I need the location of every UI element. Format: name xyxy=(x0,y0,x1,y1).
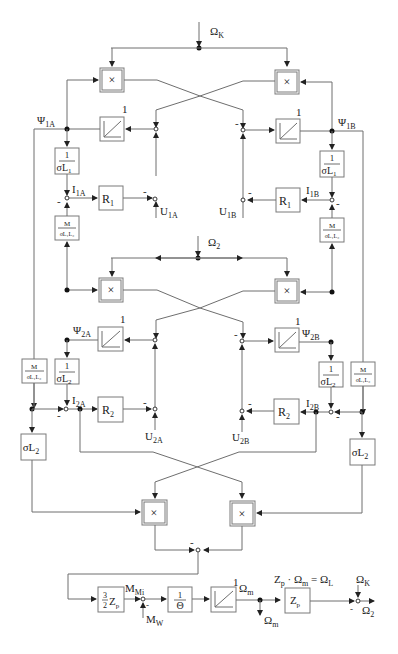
svg-text:3: 3 xyxy=(103,591,107,600)
r2-a-block: R2 xyxy=(98,397,123,422)
svg-text:-: - xyxy=(146,600,149,610)
integrator-1b: 1 xyxy=(276,106,302,143)
svg-text:1: 1 xyxy=(122,103,128,115)
m-ratio-2a: M σL₁L₂ xyxy=(22,359,47,383)
i-2a-label: I2A xyxy=(72,394,86,409)
i-1b-label: I1B xyxy=(306,184,319,199)
svg-text:1: 1 xyxy=(120,313,126,325)
psi1a-to-multiplier xyxy=(67,80,98,129)
node-1b-low xyxy=(330,290,335,295)
multiplier-torque-b: × xyxy=(230,501,255,526)
m-ratio-2b: M σL₁L₂ xyxy=(351,362,375,386)
sum-junction-1a-int xyxy=(126,124,158,176)
svg-text:1: 1 xyxy=(65,150,70,160)
sum-u2a xyxy=(153,407,157,411)
r1-b-block: R1 xyxy=(276,188,300,212)
sum-junction-1b-int: - xyxy=(235,117,274,218)
svg-text:Θ: Θ xyxy=(176,600,183,611)
svg-text:-: - xyxy=(336,410,340,422)
psi1b-to-multiplier xyxy=(301,82,332,131)
block-diagram: ΩK × × 1 1 xyxy=(0,0,398,654)
svg-text:2: 2 xyxy=(103,601,107,610)
sum-i2b xyxy=(329,410,333,414)
r1-a-block: R1 xyxy=(99,186,123,210)
multiplier-torque-a: × xyxy=(142,500,167,525)
u-2a-label: U2A xyxy=(145,430,163,445)
svg-text:-: - xyxy=(234,328,238,340)
u-1b-label: U1B xyxy=(219,205,236,220)
sum-2a-int xyxy=(153,338,157,342)
sum-torque xyxy=(196,548,200,552)
inertia-block: 1 Θ xyxy=(168,587,192,612)
svg-text:-: - xyxy=(248,397,252,409)
multiply-icon: × xyxy=(109,73,116,87)
sigma-l2-b: σL2 xyxy=(350,439,375,465)
svg-text:1: 1 xyxy=(330,153,335,163)
svg-text:σL₁L₂: σL₁L₂ xyxy=(60,231,75,237)
integrator-2b: 1 xyxy=(275,315,301,352)
integrator-1a: 1 xyxy=(100,103,128,141)
svg-text:-: - xyxy=(143,185,147,197)
omega-2-output-label: Ω2 xyxy=(362,604,374,619)
svg-text:σL₁L₂: σL₁L₂ xyxy=(325,233,340,239)
multiply-icon: × xyxy=(284,284,291,298)
multiplier-2a: × xyxy=(99,278,123,302)
svg-text:1: 1 xyxy=(329,364,334,374)
multiply-icon: × xyxy=(284,75,291,89)
omega-m-label: Ωm xyxy=(239,582,254,597)
inv-sigma-l1-b: 1 σL1 xyxy=(320,151,344,178)
u-2b-label: U2B xyxy=(232,431,249,446)
psi-2b-label: Ψ2B xyxy=(302,327,319,342)
sum-u1a xyxy=(153,197,157,201)
psi-2a-label: Ψ2A xyxy=(73,324,91,339)
svg-text:M: M xyxy=(31,363,38,371)
svg-text:-: - xyxy=(143,396,147,408)
svg-text:-: - xyxy=(248,186,252,198)
integrator-speed: 1 xyxy=(211,576,239,612)
omega-2-input: Ω2 xyxy=(111,236,287,276)
sum-i1a xyxy=(65,196,69,200)
multiply-icon: × xyxy=(108,283,115,297)
svg-text:M: M xyxy=(329,222,336,230)
psi-1a-label: Ψ1A xyxy=(37,114,55,129)
multiplier-2b: × xyxy=(275,279,299,303)
multiplier-1a: × xyxy=(100,68,124,92)
svg-text:M: M xyxy=(64,220,71,228)
i-1a-label: I1A xyxy=(72,183,86,198)
cross-coupling-mid xyxy=(123,290,275,336)
svg-text:-: - xyxy=(57,195,61,207)
svg-text:1: 1 xyxy=(65,361,70,371)
psi-1b-label: Ψ1B xyxy=(338,116,355,131)
inv-sigma-l1-a: 1 σL1 xyxy=(55,148,79,175)
u-1a-label: U1A xyxy=(160,205,178,220)
svg-text:1: 1 xyxy=(233,576,239,588)
svg-text:-: - xyxy=(190,536,194,548)
svg-text:Ω2: Ω2 xyxy=(208,236,220,251)
svg-text:σL₁L₂: σL₁L₂ xyxy=(27,374,42,380)
m-mi-label: MMi xyxy=(125,582,145,597)
svg-text:-: - xyxy=(57,409,61,421)
svg-text:1: 1 xyxy=(296,106,302,118)
m-w-label: MW xyxy=(146,613,164,628)
m-ratio-1a: M σL₁L₂ xyxy=(55,216,79,240)
torque-gain-block: 3 2 Zp xyxy=(98,587,124,612)
svg-text:-: - xyxy=(235,117,239,129)
omega-k-input: ΩK xyxy=(111,22,287,66)
r2-b-block: R2 xyxy=(274,399,299,424)
omega-m-output-label: Ωm xyxy=(264,614,279,629)
svg-text:M: M xyxy=(360,366,367,374)
ratio-equation: Zp · Ωm = ΩL xyxy=(274,573,333,588)
integrator-2a: 1 xyxy=(98,313,126,351)
sum-u2b xyxy=(240,409,244,413)
svg-text:1: 1 xyxy=(178,590,183,600)
m-ratio-1b: M σL₁L₂ xyxy=(320,218,344,242)
cross-coupling-top xyxy=(124,80,275,124)
svg-text:-: - xyxy=(336,197,340,209)
sum-i2a xyxy=(64,407,68,411)
node-1a-low xyxy=(65,288,70,293)
multiply-icon: × xyxy=(151,506,158,520)
omega-k-label: ΩK xyxy=(210,25,224,40)
sum-i1b xyxy=(330,198,334,202)
sum-torque-load xyxy=(141,597,145,601)
sum-2b-int xyxy=(240,339,244,343)
